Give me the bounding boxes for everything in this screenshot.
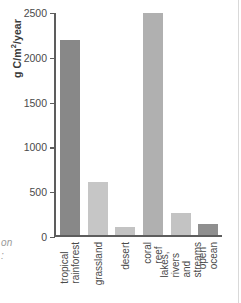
x-label-slot: open ocean <box>194 240 222 303</box>
y-axis-title-main: g C/m <box>11 48 23 78</box>
x-tick-label: open ocean <box>197 242 219 269</box>
plot-area: 05001000150020002500 <box>54 13 222 237</box>
caption-fragment: on : <box>1 236 31 262</box>
x-label-slot: desert <box>111 240 139 303</box>
x-tick-label: tropical rainforest <box>59 242 81 284</box>
bar-slot <box>194 13 222 235</box>
x-axis-line <box>54 235 222 237</box>
y-tick-label: 1000 <box>24 141 47 153</box>
y-tick-label: 500 <box>29 186 47 198</box>
y-tick-mark <box>50 58 55 59</box>
bar-slot <box>56 13 84 235</box>
x-axis-labels: tropical rainforestgrasslanddesertcoral … <box>56 240 222 303</box>
chart-page: on : g C/m2/year 05001000150020002500 tr… <box>0 0 241 303</box>
y-tick-label: 2500 <box>24 7 47 19</box>
y-tick-label: 2000 <box>24 52 47 64</box>
bar[interactable] <box>115 227 135 235</box>
y-tick-mark <box>50 147 55 148</box>
page-right-rule <box>238 0 239 303</box>
bar[interactable] <box>198 224 218 235</box>
x-tick-label: desert <box>120 242 131 270</box>
y-tick-label: 0 <box>41 231 47 243</box>
y-tick-mark <box>50 13 55 14</box>
x-label-slot: grassland <box>84 240 112 303</box>
y-axis-title-tail: /year <box>11 19 23 44</box>
bar[interactable] <box>88 182 108 235</box>
bar-slot <box>84 13 112 235</box>
bar[interactable] <box>60 40 80 235</box>
bar-slot <box>111 13 139 235</box>
y-axis-title-superscript: 2 <box>9 44 18 48</box>
y-tick-mark <box>50 237 55 238</box>
x-label-slot: tropical rainforest <box>56 240 84 303</box>
x-tick-label: grassland <box>92 242 103 285</box>
bar-group <box>56 13 222 235</box>
bar[interactable] <box>171 213 191 235</box>
y-tick-mark <box>50 103 55 104</box>
bar-slot <box>167 13 195 235</box>
y-axis-title: g C/m2/year <box>9 19 23 78</box>
x-label-slot: lakes, rivers and streams <box>167 240 195 303</box>
bar-slot <box>139 13 167 235</box>
bar[interactable] <box>143 13 163 235</box>
y-tick-mark <box>50 192 55 193</box>
y-tick-label: 1500 <box>24 97 47 109</box>
